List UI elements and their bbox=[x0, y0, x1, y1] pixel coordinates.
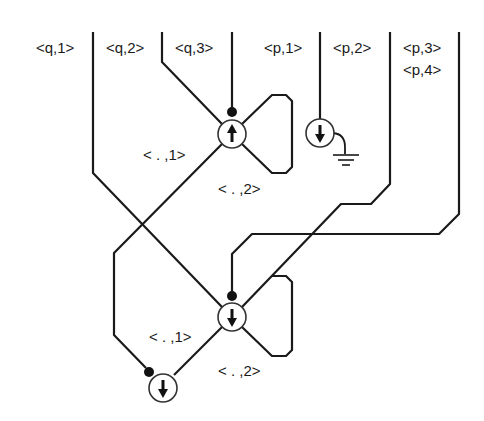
dot-marker bbox=[227, 291, 237, 301]
middle-node bbox=[218, 291, 246, 331]
upper-node bbox=[218, 107, 246, 148]
wire-q1 bbox=[93, 32, 222, 307]
dot-marker bbox=[227, 107, 237, 117]
upper-node-port-1-label: < . ,1> bbox=[143, 146, 186, 163]
ground-node bbox=[306, 119, 334, 147]
port-label-p4: <p,4> bbox=[403, 61, 442, 78]
wire-ground bbox=[333, 133, 345, 154]
dot-marker bbox=[144, 367, 154, 377]
port-label-q3: <q,3> bbox=[175, 39, 214, 56]
wiring-diagram: <q,1> <q,2> <q,3> <p,1> <p,2> <p,3> <p,4… bbox=[0, 0, 484, 421]
port-label-q1: <q,1> bbox=[36, 39, 75, 56]
bottom-node bbox=[144, 367, 177, 402]
port-label-p3: <p,3> bbox=[403, 39, 442, 56]
port-label-p1: <p,1> bbox=[264, 39, 303, 56]
wire-p2 bbox=[242, 32, 390, 307]
port-label-p2: <p,2> bbox=[333, 39, 372, 56]
port-label-q2: <q,2> bbox=[106, 39, 145, 56]
upper-node-port-2-label: < . ,2> bbox=[218, 180, 261, 197]
wire-middle-loop bbox=[242, 276, 292, 356]
middle-node-port-2-label: < . ,2> bbox=[218, 362, 261, 379]
wire-upper-loop bbox=[242, 95, 292, 173]
middle-node-port-1-label: < . ,1> bbox=[149, 328, 192, 345]
